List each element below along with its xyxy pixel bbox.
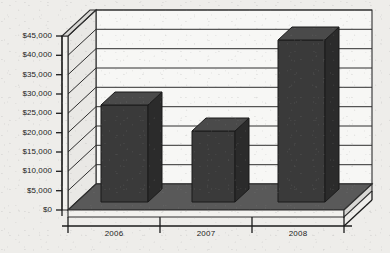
bar-2006-front [101,105,148,202]
bar-2006[interactable] [101,92,162,202]
floor-front-edge [68,210,344,217]
bar-2008-side [325,27,339,202]
bar-2007-front [192,131,235,202]
ytick-label-10000: $10,000 [0,166,52,175]
ytick-label-25000: $25,000 [0,108,52,117]
bar-2007-side [235,118,249,202]
y-axis [56,36,62,216]
xtick-label-2007: 2007 [176,229,236,238]
axis-slab [62,36,68,210]
ytick-label-35000: $35,000 [0,70,52,79]
ytick-label-20000: $20,000 [0,128,52,137]
xtick-label-2008: 2008 [268,229,328,238]
ytick-label-5000: $5,000 [0,186,52,195]
bar-2008[interactable] [278,27,339,202]
chart-canvas [0,0,390,253]
bar-2008-front [278,40,325,202]
ytick-label-30000: $30,000 [0,89,52,98]
ytick-label-45000: $45,000 [0,31,52,40]
xtick-label-2006: 2006 [84,229,144,238]
ytick-label-40000: $40,000 [0,50,52,59]
ytick-label-15000: $15,000 [0,147,52,156]
ytick-label-0: $0 [0,205,52,214]
bar-2007[interactable] [192,118,249,202]
bar-2006-side [148,92,162,202]
bar-chart-3d: $45,000 $40,000 $35,000 $30,000 $25,000 … [0,0,390,253]
